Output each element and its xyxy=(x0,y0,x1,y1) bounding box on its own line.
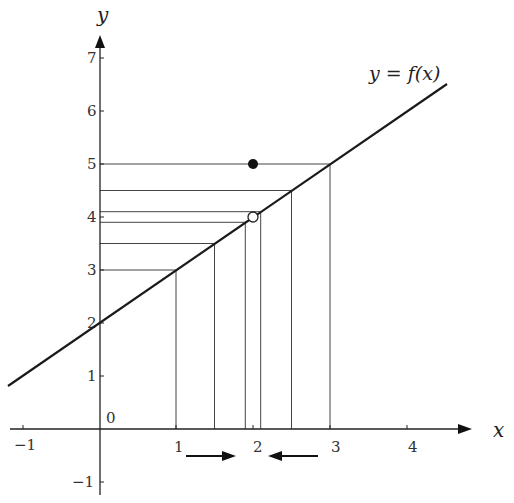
x-tick-label: 4 xyxy=(408,438,418,456)
vertical-guides xyxy=(176,164,330,429)
limit-diagram: −1 1 2 3 4 0 −1 1 2 3 4 5 6 7 x y y = f(… xyxy=(0,0,514,503)
origin-label: 0 xyxy=(106,409,116,427)
x-tick-label: 2 xyxy=(253,438,263,456)
left-arrow-icon xyxy=(268,451,318,461)
filled-point xyxy=(248,159,258,169)
y-axis-arrow-icon xyxy=(95,35,105,48)
y-tick-label: 6 xyxy=(87,102,97,120)
open-point xyxy=(248,212,258,222)
y-tick-label: 3 xyxy=(87,261,97,279)
right-arrow-icon xyxy=(186,451,236,461)
x-axis-label: x xyxy=(493,418,504,442)
y-tick-label: 7 xyxy=(87,49,97,67)
x-tick-label: −1 xyxy=(14,436,36,454)
y-tick-label: 4 xyxy=(87,208,97,226)
x-axis xyxy=(10,424,472,434)
y-tick-label: 1 xyxy=(87,367,97,385)
x-axis-arrow-icon xyxy=(458,424,472,434)
y-tick-label: −1 xyxy=(72,473,94,491)
y-axis-label: y xyxy=(96,3,109,27)
function-line xyxy=(8,84,447,386)
y-tick-label: 5 xyxy=(87,155,97,173)
x-tick-label: 1 xyxy=(174,438,184,456)
x-tick-label: 3 xyxy=(331,438,341,456)
curve-label: y = f(x) xyxy=(368,62,440,84)
